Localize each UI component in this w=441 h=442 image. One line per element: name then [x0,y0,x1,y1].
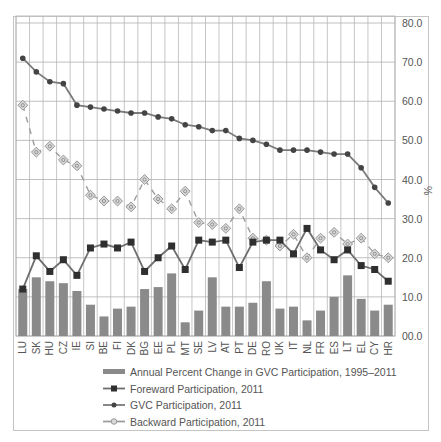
data-point-marker [385,200,391,206]
grid [16,16,395,336]
data-point-marker [155,114,161,120]
bar [113,309,122,336]
y-tick-label: 70.0 [402,56,423,68]
bar [370,311,379,336]
x-tick-label: EL [356,341,367,354]
data-point-marker [385,278,392,285]
data-point-marker [237,136,243,142]
bar [357,299,366,336]
x-axis: LUSKHUCZIESIBEFIDKBGEEPLMTSELVATPTDEROUK… [17,341,393,356]
data-point-marker [101,106,107,112]
data-point-marker [277,147,283,153]
data-point-marker [141,268,148,275]
x-tick-label: HU [44,341,55,355]
data-point-marker [73,272,80,279]
data-point-marker [33,252,40,259]
bar [275,309,284,336]
x-tick-label: LU [17,341,28,354]
y-tick-label: 80.0 [402,17,423,29]
legend: Annual Percent Change in GVC Participati… [103,366,397,428]
data-point-marker [142,110,148,116]
bar [167,273,176,336]
bar-swatch-icon [103,369,125,374]
data-point-marker [182,266,189,273]
legend-label: Annual Percent Change in GVC Participati… [130,366,397,378]
x-tick-label: BG [139,341,150,356]
data-point-marker [113,196,123,206]
data-point-marker [372,185,378,191]
bar [45,281,54,336]
y-tick-label: 40.0 [402,174,423,186]
y-tick-label: 20.0 [402,252,423,264]
data-point-marker [316,233,326,243]
x-tick-label: ES [329,341,340,355]
data-point-marker [72,161,82,171]
circle-marker-dashed-line-icon [111,419,117,425]
x-tick-label: IT [288,341,299,350]
data-point-marker [358,165,364,171]
data-point-marker [140,175,150,185]
data-point-marker [18,100,28,110]
y-tick-label: 60.0 [402,95,423,107]
bar [181,322,190,336]
data-point-marker [34,69,40,75]
bar [18,289,27,336]
x-tick-label: CY [369,341,380,355]
data-point-marker [221,223,231,233]
data-point-marker [19,286,26,293]
data-point-marker [126,202,136,212]
x-tick-label: SI [85,341,96,350]
data-point-marker [195,237,202,244]
y-tick-label: 10.0 [402,291,423,303]
x-tick-label: PL [166,341,177,354]
legend-label: GVC Participation, 2011 [130,399,242,411]
data-point-marker [290,250,297,257]
data-point-marker [155,254,162,261]
square-marker-line-icon [111,386,117,392]
data-point-marker [318,149,324,155]
data-point-marker [114,244,121,251]
x-tick-label: UK [274,341,285,355]
chart: 00.010.020.030.040.050.060.070.080.0 LUS… [0,0,441,442]
x-tick-label: CZ [58,341,69,354]
bar [127,307,136,336]
data-point-marker [209,239,216,246]
bar [343,275,352,336]
bar [154,287,163,336]
bar [248,303,257,336]
x-tick-label: DE [247,341,258,355]
data-point-marker [345,151,351,157]
x-tick-label: NL [302,341,313,354]
data-point-marker [234,204,244,214]
data-point-marker [276,237,283,244]
y-tick-label: 30.0 [402,213,423,225]
diamond-marker-line-icon [112,403,117,408]
y-tick-label: 50.0 [402,134,423,146]
x-tick-label: FR [315,341,326,354]
data-point-marker [45,141,55,151]
data-point-marker [249,239,256,246]
x-tick-label: LV [207,341,218,353]
data-point-marker [46,268,53,275]
data-point-marker [182,122,188,128]
x-tick-label: SK [31,341,42,355]
x-tick-label: LT [342,341,353,352]
data-point-marker [196,124,202,130]
bar [99,316,108,336]
data-point-marker [20,55,26,61]
data-point-marker [222,237,229,244]
data-point-marker [60,256,67,263]
bar [72,291,81,336]
data-point-marker [371,266,378,273]
data-point-marker [88,104,94,110]
x-tick-label: RO [261,341,272,356]
data-point-marker [99,196,109,206]
data-point-marker [74,102,80,108]
data-point-marker [331,151,337,157]
data-point-marker [85,190,95,200]
x-tick-label: EE [153,341,164,355]
data-point-marker [169,116,175,122]
y-tick-label: 00.0 [402,330,423,342]
data-point-marker [344,246,351,253]
data-point-marker [383,253,393,263]
